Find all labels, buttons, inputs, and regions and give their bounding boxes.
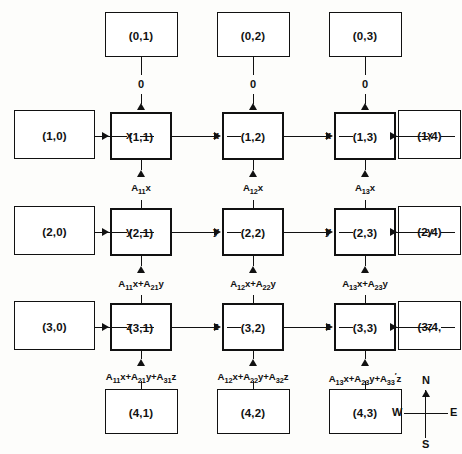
connector-line <box>141 160 142 170</box>
connector-line <box>253 295 254 303</box>
connector-line <box>253 351 254 359</box>
node-n41: (4,1) <box>105 389 178 434</box>
node-n10: (1,0) <box>14 110 95 159</box>
connector-line <box>253 200 254 208</box>
node-n02-label: (0,2) <box>241 29 266 41</box>
connector-line <box>141 200 142 208</box>
arrowhead-up <box>249 103 257 110</box>
connector-line <box>365 200 366 208</box>
arrowhead-up <box>249 359 257 366</box>
arrowhead-up <box>361 266 369 273</box>
node-n12-label: (1,2) <box>241 131 266 143</box>
arrowhead-up <box>361 103 369 110</box>
node-n20: (2,0) <box>14 206 95 255</box>
connector-line <box>441 136 455 137</box>
connector-line <box>227 232 241 233</box>
connector-line <box>253 57 254 75</box>
edge-formula-row3-col1: A11x+A21y+A31z <box>106 371 176 385</box>
connector-line <box>339 327 353 328</box>
arrowhead-up <box>249 170 257 177</box>
connector-line <box>140 232 154 233</box>
compass-label-west: W <box>392 406 402 418</box>
node-n02: (0,2) <box>217 12 290 57</box>
node-n10-label: (1,0) <box>42 129 67 141</box>
arrowhead-right <box>326 132 333 140</box>
compass-arm <box>404 413 448 414</box>
connector-line <box>365 295 366 303</box>
connector-line <box>141 351 142 359</box>
arrowhead-right <box>102 228 109 236</box>
edge-formula-row1-col2: A12x <box>243 182 263 196</box>
compass-north-arrowhead <box>422 390 430 397</box>
edge-label-row1-0: x <box>119 129 139 141</box>
connector-line <box>339 232 353 233</box>
connector-line <box>227 136 241 137</box>
arrowhead-up <box>249 266 257 273</box>
arrowhead-up <box>137 266 145 273</box>
arrowhead-up <box>361 359 369 366</box>
node-n03: (0,3) <box>329 12 402 57</box>
edge-label-zero-col2: 0 <box>243 78 263 90</box>
node-n13-label: (1,3) <box>353 131 378 143</box>
node-n43: (4,3) <box>329 389 402 434</box>
arrowhead-up <box>137 103 145 110</box>
edge-formula-row2-col3: A13x+A23y <box>342 278 388 292</box>
edge-formula-row3-col3: A13x+A23y+A33′z <box>329 371 402 387</box>
node-n20-label: (2,0) <box>42 225 67 237</box>
node-n03-label: (0,3) <box>353 29 378 41</box>
arrowhead-right <box>214 132 221 140</box>
arrowhead-up <box>137 359 145 366</box>
edge-formula-row2-col2: A12x+A22y <box>230 278 276 292</box>
node-n23-label: (2,3) <box>353 227 378 239</box>
arrowhead-right <box>102 323 109 331</box>
compass-label-south: S <box>422 438 429 450</box>
node-n01: (0,1) <box>105 12 178 57</box>
node-n30: (3,0) <box>14 301 95 350</box>
node-n41-label: (4,1) <box>129 406 154 418</box>
node-n42-label: (4,2) <box>241 406 266 418</box>
arrowhead-right <box>214 323 221 331</box>
connector-line <box>227 327 241 328</box>
arrowhead-right <box>214 228 221 236</box>
connector-line <box>339 136 353 137</box>
arrowhead-right <box>390 132 397 140</box>
edge-formula-row3-col2: A12x+A22y+A32z <box>218 371 289 385</box>
connector-line <box>141 295 142 303</box>
node-n01-label: (0,1) <box>129 29 154 41</box>
edge-label-row3-3: z <box>420 320 440 332</box>
node-n30-label: (3,0) <box>42 320 67 332</box>
connector-line <box>441 232 455 233</box>
edge-label-row1-3: x <box>420 129 440 141</box>
edge-label-row2-3: y <box>420 225 440 237</box>
compass-rose: NSEW <box>392 372 460 452</box>
edge-label-row2-0: y <box>119 225 139 237</box>
compass-label-east: E <box>450 406 457 418</box>
edge-formula-row1-col1: A11x <box>131 182 151 196</box>
compass-label-north: N <box>422 374 430 386</box>
node-n32-label: (3,2) <box>241 322 266 334</box>
connector-line <box>365 57 366 75</box>
edge-label-zero-col1: 0 <box>131 78 151 90</box>
arrowhead-right <box>326 228 333 236</box>
edge-label-zero-col3: 0 <box>355 78 375 90</box>
arrowhead-right <box>326 323 333 331</box>
connector-line <box>365 351 366 359</box>
arrowhead-right <box>102 132 109 140</box>
connector-line <box>365 256 366 266</box>
arrowhead-up <box>137 170 145 177</box>
edge-formula-row1-col3: A13x <box>355 182 375 196</box>
node-n22-label: (2,2) <box>241 227 266 239</box>
connector-line <box>140 136 154 137</box>
connector-line <box>253 256 254 266</box>
arrowhead-right <box>390 323 397 331</box>
connector-line <box>441 327 455 328</box>
diagram-canvas: (1,1)(1,2)(1,3)(2,1)(2,2)(2,3)(3,1)(3,2)… <box>0 0 462 454</box>
connector-line <box>141 57 142 75</box>
connector-line <box>365 160 366 170</box>
arrowhead-up <box>361 170 369 177</box>
connector-line <box>253 160 254 170</box>
connector-line <box>140 327 154 328</box>
edge-formula-row2-col1: A11x+A21y <box>118 278 163 292</box>
node-n43-label: (4,3) <box>353 406 378 418</box>
arrowhead-right <box>390 228 397 236</box>
